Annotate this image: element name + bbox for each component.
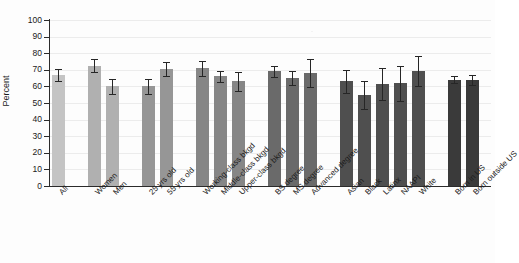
error-bar-cap-top [55, 69, 62, 70]
error-bar-cap-bottom [397, 101, 404, 102]
y-tick-mark [44, 153, 49, 154]
error-bar-cap-top [415, 56, 422, 57]
bar[interactable] [394, 83, 407, 186]
bar[interactable] [358, 95, 371, 186]
error-bar-cap-top [145, 79, 152, 80]
y-tick-label: 60 [16, 82, 42, 91]
y-tick-mark [44, 169, 49, 170]
error-bar-cap-top [217, 71, 224, 72]
gridline [50, 53, 491, 54]
error-bar-cap-bottom [91, 72, 98, 73]
error-bar-cap-top [271, 66, 278, 67]
y-tick-mark [44, 20, 49, 21]
y-tick-mark [44, 37, 49, 38]
error-bar-cap-top [451, 76, 458, 77]
error-bar-line [364, 81, 365, 109]
error-bar-line [274, 66, 275, 78]
x-axis-tick-labels: AllWomenMen25 yrs old55 yrs oldWorking-c… [50, 188, 491, 263]
y-tick-label: 10 [16, 165, 42, 174]
y-tick-label: 70 [16, 65, 42, 74]
bar[interactable] [376, 84, 389, 186]
error-bar-cap-bottom [217, 82, 224, 83]
bar[interactable] [142, 86, 155, 186]
gridline [50, 37, 491, 38]
y-tick-mark [44, 120, 49, 121]
y-tick-label: 50 [16, 99, 42, 108]
y-tick-mark [44, 86, 49, 87]
y-tick-mark [44, 53, 49, 54]
bar[interactable] [412, 71, 425, 186]
error-bar-cap-top [469, 75, 476, 76]
y-tick-label: 40 [16, 115, 42, 124]
bar[interactable] [88, 66, 101, 186]
error-bar-cap-bottom [451, 83, 458, 84]
y-tick-mark [44, 136, 49, 137]
error-bar-cap-top [361, 81, 368, 82]
y-tick-label: 0 [16, 182, 42, 191]
bar[interactable] [196, 68, 209, 186]
error-bar-line [112, 79, 113, 94]
y-tick-label: 30 [16, 132, 42, 141]
error-bar-cap-bottom [163, 76, 170, 77]
error-bar-line [238, 72, 239, 90]
error-bar-cap-bottom [55, 81, 62, 82]
y-axis-tick-labels: 0102030405060708090100 [10, 0, 42, 263]
error-bar-cap-bottom [307, 87, 314, 88]
error-bar-cap-bottom [145, 94, 152, 95]
error-bar-cap-bottom [343, 93, 350, 94]
error-bar-cap-bottom [379, 100, 386, 101]
error-bar-cap-top [343, 70, 350, 71]
error-bar-cap-bottom [199, 76, 206, 77]
error-bar-cap-bottom [415, 86, 422, 87]
y-axis-line [49, 19, 50, 187]
error-bar-cap-top [163, 62, 170, 63]
y-tick-label: 80 [16, 49, 42, 58]
error-bar-line [310, 59, 311, 87]
error-bar-cap-bottom [289, 85, 296, 86]
bar[interactable] [52, 75, 65, 186]
error-bar-cap-bottom [469, 85, 476, 86]
error-bar-line [454, 76, 455, 83]
error-bar-line [382, 68, 383, 100]
error-bar-cap-bottom [235, 91, 242, 92]
bar[interactable] [448, 80, 461, 186]
y-tick-label: 100 [16, 16, 42, 25]
error-bar-cap-top [307, 59, 314, 60]
error-bar-line [292, 71, 293, 84]
error-bar-line [94, 59, 95, 72]
error-bar-cap-bottom [271, 77, 278, 78]
y-tick-mark [44, 186, 49, 187]
y-tick-mark [44, 103, 49, 104]
error-bar-line [346, 70, 347, 93]
error-bar-line [400, 66, 401, 101]
error-bar-cap-top [91, 59, 98, 60]
error-bar-cap-top [109, 79, 116, 80]
gridline [50, 20, 491, 21]
y-tick-label: 90 [16, 32, 42, 41]
error-bar-line [418, 56, 419, 86]
error-bar-line [202, 61, 203, 76]
error-bar-cap-bottom [361, 109, 368, 110]
error-bar-cap-top [379, 68, 386, 69]
error-bar-cap-bottom [109, 94, 116, 95]
y-tick-label: 20 [16, 148, 42, 157]
error-bar-line [472, 75, 473, 85]
error-bar-line [148, 79, 149, 94]
error-bar-cap-top [397, 66, 404, 67]
error-bar-line [166, 62, 167, 75]
error-bar-cap-top [199, 61, 206, 62]
y-tick-mark [44, 70, 49, 71]
error-bar-line [58, 69, 59, 81]
error-bar-line [220, 71, 221, 83]
error-bar-cap-top [235, 72, 242, 73]
error-bar-cap-top [289, 71, 296, 72]
